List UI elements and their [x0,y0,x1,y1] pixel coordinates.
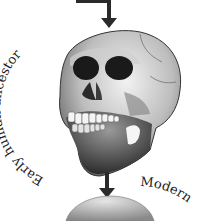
early-human-skull-icon [60,31,181,176]
early-ancestor-label: Early human ancestor [0,46,45,189]
modern-human-skull-icon [66,196,154,221]
diagram-svg: Early human ancestor Modern [0,0,197,221]
arrow-into-early-skull [76,0,117,28]
evolution-diagram: Early human ancestor Modern [0,0,197,221]
modern-label: Modern [140,174,196,206]
